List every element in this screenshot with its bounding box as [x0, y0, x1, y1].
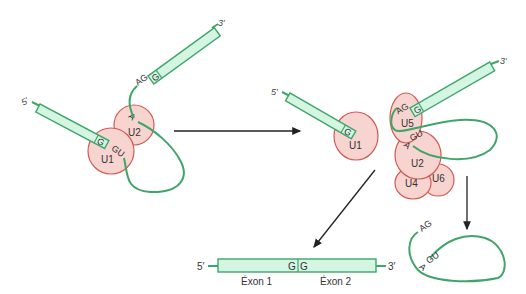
- stage-4-mrna: 5′ 3′ G G Éxon 1 Éxon 2: [197, 259, 396, 287]
- five-prime-label-2: 5′: [271, 87, 278, 97]
- three-prime-label: 3′: [218, 18, 225, 28]
- label-exon2: Éxon 2: [320, 275, 352, 287]
- label-u1-2: U1: [349, 140, 362, 151]
- stage-5-lariat: AG GU A: [409, 218, 504, 281]
- label-g-exon1: G: [288, 261, 296, 272]
- label-u5: U5: [401, 118, 414, 129]
- arrow-down-left: [314, 170, 375, 247]
- splicing-diagram: G 5′ GU U1 U2 A AG G 3′ G 5′ U1: [0, 0, 526, 294]
- label-g-exon2: G: [300, 261, 308, 272]
- three-prime-label-3: 3′: [388, 261, 396, 272]
- stage-2-complex: G 5′ U1: [271, 87, 378, 160]
- three-prime-label-2: 3′: [500, 56, 507, 66]
- spliced-exons: [218, 259, 376, 272]
- exon-2-sp: G: [410, 62, 495, 117]
- label-ag-lariat: AG: [417, 218, 433, 234]
- label-exon1: Éxon 1: [241, 275, 273, 287]
- exon-2-box: G: [148, 28, 221, 85]
- label-u6: U6: [432, 173, 445, 184]
- exon-1-box: G: [35, 104, 109, 149]
- label-u2-sp: U2: [411, 158, 424, 169]
- label-u4: U4: [405, 178, 418, 189]
- five-prime-label-3: 5′: [197, 261, 205, 272]
- five-prime-label: 5′: [20, 95, 31, 107]
- stage-3-spliceosome: G 3′ AG U5 GU A U2 U4 U6: [390, 56, 507, 199]
- label-ag: AG: [133, 72, 149, 88]
- label-u1: U1: [101, 154, 114, 165]
- stage-1-complex: G 5′ GU U1 U2 A AG G 3′: [20, 18, 225, 192]
- snrnp-u1-released: [334, 112, 378, 160]
- label-u2: U2: [128, 127, 141, 138]
